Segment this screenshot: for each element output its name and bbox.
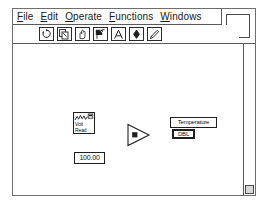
multiply-triangle-icon [126, 123, 151, 147]
operate-tool-button[interactable] [39, 27, 54, 41]
menu-item-file[interactable]: File [17, 12, 34, 22]
diamond-brush-icon [131, 29, 142, 40]
menu-operate-hotkey: O [65, 11, 73, 22]
temperature-indicator[interactable]: Temperature DBL [170, 117, 217, 143]
vertical-scrollbar-thumb[interactable] [245, 45, 254, 185]
tool-palette [13, 25, 239, 44]
multiply-node[interactable] [126, 123, 151, 147]
menu-operate-rest: perate [73, 11, 102, 22]
text-tool-button[interactable] [111, 27, 126, 41]
pencil-icon [149, 29, 160, 40]
screen-root: File Edit Operate Functions Windows [0, 0, 269, 212]
temperature-indicator-terminal[interactable]: DBL [172, 129, 195, 139]
volt-read-line2: Read [75, 128, 95, 134]
arrow-pages-icon [59, 29, 70, 40]
color-tool-button[interactable] [129, 27, 144, 41]
menu-item-functions[interactable]: Functions [109, 12, 153, 22]
spool-wire-icon [95, 29, 106, 40]
scroll-tool-button[interactable] [75, 27, 90, 41]
menu-windows-rest: indows [170, 11, 202, 22]
letter-a-icon [113, 29, 124, 40]
temperature-indicator-label: Temperature [170, 117, 217, 128]
pointing-hand-rotate-icon [41, 29, 52, 39]
menu-item-windows[interactable]: Windows [160, 12, 201, 22]
volt-read-subvi-label: Volt Read [74, 122, 95, 133]
wiring-tool-button[interactable] [93, 27, 108, 41]
edit-tool-button[interactable] [147, 27, 162, 41]
block-diagram-canvas[interactable]: Volt Read 100.00 Temperature DBL [13, 44, 243, 195]
block-diagram-window: File Edit Operate Functions Windows [12, 8, 256, 196]
numeric-constant[interactable]: 100.00 [74, 152, 105, 164]
volt-read-subvi-node[interactable]: Volt Read [73, 112, 95, 134]
menu-file-rest: ile [23, 11, 33, 22]
resize-grow-box[interactable] [245, 185, 254, 194]
menu-bar: File Edit Operate Functions Windows [13, 9, 239, 25]
vertical-scrollbar[interactable] [243, 44, 255, 195]
menu-edit-rest: dit [47, 11, 58, 22]
menu-windows-hotkey: W [160, 11, 170, 22]
open-hand-icon [77, 29, 88, 40]
menu-functions-rest: unctions [115, 11, 153, 22]
position-tool-button[interactable] [57, 27, 72, 41]
menu-item-edit[interactable]: Edit [41, 12, 59, 22]
menu-item-operate[interactable]: Operate [65, 12, 102, 22]
